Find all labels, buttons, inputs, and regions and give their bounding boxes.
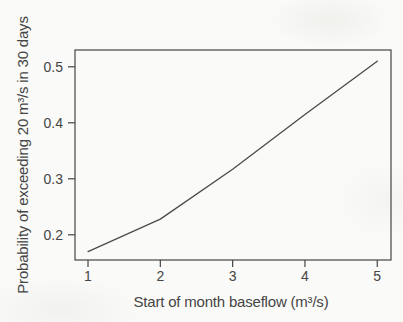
baseflow-probability-chart: 12345 0.20.30.40.5 Start of month basefl… bbox=[0, 0, 403, 322]
y-tick-label: 0.2 bbox=[44, 227, 64, 243]
x-tick-label: 3 bbox=[229, 268, 237, 284]
y-tick-label: 0.4 bbox=[44, 115, 64, 131]
x-tick-label: 2 bbox=[156, 268, 164, 284]
y-tick-label: 0.3 bbox=[44, 171, 64, 187]
y-tick-label: 0.5 bbox=[44, 59, 64, 75]
y-axis-label: Probability of exceeding 20 m³/s in 30 d… bbox=[14, 16, 31, 293]
x-tick-label: 4 bbox=[301, 268, 309, 284]
plot-box bbox=[75, 50, 391, 260]
scanned-figure-page: { "page": { "background": "#fafaf8", "in… bbox=[0, 0, 403, 322]
y-axis: 0.20.30.40.5 bbox=[44, 59, 75, 243]
x-tick-label: 5 bbox=[373, 268, 381, 284]
x-axis: 12345 bbox=[84, 260, 381, 284]
data-line-series bbox=[88, 61, 377, 251]
x-axis-label: Start of month baseflow (m³/s) bbox=[134, 293, 329, 310]
x-tick-label: 1 bbox=[84, 268, 92, 284]
